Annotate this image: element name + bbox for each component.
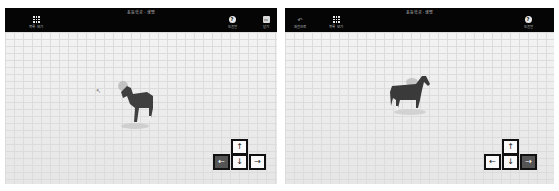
list-button-label: 목록 보기 <box>323 24 349 29</box>
key-right[interactable]: → <box>249 154 266 170</box>
horse-hoof <box>149 116 151 121</box>
key-left[interactable]: ← <box>213 154 230 170</box>
list-button[interactable]: 목록 보기 <box>23 16 49 29</box>
top-bar: 초등학교 · 생명 ↶ 처음으로 목록 보기 ? 도움말 <box>285 8 554 32</box>
top-bar: 초등학교 · 생명 목록 보기 ? 도움말 ▭ 닫기 <box>5 8 277 32</box>
help-icon: ? <box>229 16 236 23</box>
back-button-label: 처음으로 <box>287 24 313 29</box>
arrow-keypad: ↑ ← ↓ → <box>210 139 268 177</box>
key-up[interactable]: ↑ <box>231 139 248 155</box>
list-button-label: 목록 보기 <box>23 24 49 29</box>
key-down[interactable]: ↓ <box>231 154 248 170</box>
close-button[interactable]: ▭ 닫기 <box>253 16 277 29</box>
grid-icon <box>333 16 340 23</box>
viewer-panel-left: 초등학교 · 생명 목록 보기 ? 도움말 ▭ 닫기 ↖ ↑ ← ↓ → <box>5 8 277 184</box>
key-left[interactable]: ← <box>484 154 501 170</box>
list-button[interactable]: 목록 보기 <box>323 16 349 29</box>
grid-icon <box>33 16 40 23</box>
help-button-label: 도움말 <box>219 24 245 29</box>
back-icon: ↶ <box>297 16 304 23</box>
help-icon: ? <box>525 16 532 23</box>
horse-hoof <box>396 106 398 110</box>
horse-model[interactable] <box>113 78 159 130</box>
horse-shadow <box>121 123 149 129</box>
app-title: 초등학교 · 생명 <box>5 9 277 15</box>
help-button[interactable]: ? 도움말 <box>515 16 541 29</box>
mouse-cursor-icon: ↖ <box>96 87 101 94</box>
key-down[interactable]: ↓ <box>502 154 519 170</box>
close-button-label: 닫기 <box>253 24 277 29</box>
viewer-panel-right: 초등학교 · 생명 ↶ 처음으로 목록 보기 ? 도움말 ↑ ← ↓ → <box>285 8 554 184</box>
back-button[interactable]: ↶ 처음으로 <box>287 16 313 29</box>
app-title: 초등학교 · 생명 <box>285 9 554 15</box>
horse-shadow <box>394 109 426 115</box>
horse-model[interactable] <box>388 70 436 116</box>
horse-body <box>121 86 153 122</box>
key-up[interactable]: ↑ <box>502 139 519 155</box>
key-right[interactable]: → <box>520 154 537 170</box>
help-button[interactable]: ? 도움말 <box>219 16 245 29</box>
close-icon: ▭ <box>263 16 270 23</box>
arrow-keypad: ↑ ← ↓ → <box>482 139 540 177</box>
help-button-label: 도움말 <box>515 24 541 29</box>
